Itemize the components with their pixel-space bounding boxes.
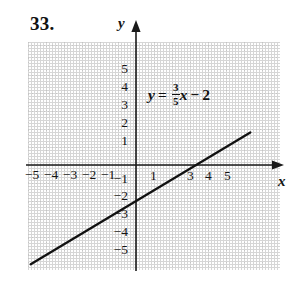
y-tick-label-neg5: −5 (106, 243, 128, 257)
x-tick-label-neg4: −4 (44, 168, 58, 182)
x-tick-label-1: 1 (150, 169, 157, 183)
x-tick-label-4: 4 (205, 169, 212, 183)
y-tick-label-neg3: −3 (106, 207, 128, 221)
x-axis-label: x (278, 174, 286, 189)
y-tick-label-5: 5 (108, 62, 128, 76)
equation-equals-sign: = (158, 87, 167, 103)
y-axis-label: y (118, 16, 125, 31)
y-axis-arrowhead (131, 20, 140, 32)
equation-annotation: y = 3 5 x − 2 (148, 82, 210, 107)
x-tick-label-3: 3 (187, 169, 194, 183)
y-tick-label-neg2: −2 (106, 189, 128, 203)
fraction-denominator: 5 (172, 96, 180, 107)
x-tick-label-neg5: −5 (25, 168, 39, 182)
x-axis-arrowhead (272, 161, 284, 170)
fraction-numerator: 3 (172, 82, 180, 93)
y-tick-label-1: 1 (108, 134, 128, 148)
y-tick-label-4: 4 (108, 80, 128, 94)
x-tick-label-5: 5 (224, 169, 231, 183)
equation-variable: x (180, 87, 188, 103)
y-tick-label-neg4: −4 (106, 225, 128, 239)
y-tick-label-3: 3 (108, 98, 128, 112)
x-tick-label-neg3: −3 (63, 168, 77, 182)
axes-and-line-layer (0, 0, 294, 283)
equation-fraction: 3 5 (172, 82, 180, 107)
equation-constant: 2 (202, 87, 210, 103)
y-tick-label-2: 2 (108, 116, 128, 130)
graph-line (31, 132, 251, 264)
equation-operator: − (190, 87, 199, 103)
x-tick-label-neg2: −2 (82, 168, 96, 182)
equation-lhs: y (148, 87, 155, 103)
x-tick-label-neg1: −1 (101, 168, 115, 182)
figure-container: 33. 5 4 3 2 1 −1 −2 −3 −4 −5 −5 −4 −3 −2… (0, 0, 294, 283)
